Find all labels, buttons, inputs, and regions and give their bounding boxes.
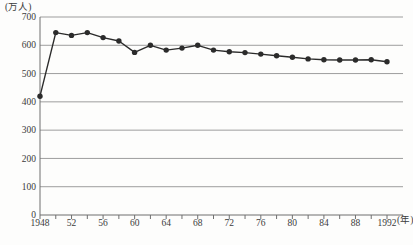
data-point-marker xyxy=(369,57,374,62)
y-tick-label: 200 xyxy=(22,154,37,164)
data-point-marker xyxy=(164,47,169,52)
data-point-marker xyxy=(211,47,216,52)
data-point-marker xyxy=(290,55,295,60)
data-point-marker xyxy=(37,94,42,99)
y-tick-label: 400 xyxy=(22,97,37,107)
x-tick-label: 64 xyxy=(161,218,171,228)
y-tick-label: 500 xyxy=(22,69,37,79)
x-tick-label: 52 xyxy=(67,218,77,228)
data-point-marker xyxy=(227,49,232,54)
y-axis-unit-label: (万人) xyxy=(5,3,31,13)
data-point-marker xyxy=(132,50,137,55)
data-point-marker xyxy=(242,50,247,55)
data-point-marker xyxy=(195,43,200,48)
y-tick-label: 600 xyxy=(22,40,37,50)
data-point-marker xyxy=(116,38,121,43)
data-line xyxy=(40,33,387,97)
data-point-marker xyxy=(353,57,358,62)
x-tick-label: 72 xyxy=(225,218,235,228)
data-point-marker xyxy=(337,57,342,62)
x-tick-label: 80 xyxy=(288,218,298,228)
x-tick-label: 76 xyxy=(256,218,266,228)
line-chart-figure: 0100200300400500600700194852566064687276… xyxy=(0,0,413,245)
x-tick-label: 56 xyxy=(98,218,108,228)
data-point-marker xyxy=(179,45,184,50)
data-point-marker xyxy=(100,35,105,40)
y-tick-label: 700 xyxy=(22,12,37,22)
data-point-marker xyxy=(274,53,279,58)
x-tick-label: 1948 xyxy=(31,218,50,228)
x-tick-label: 84 xyxy=(319,218,329,228)
data-point-marker xyxy=(69,33,74,38)
y-tick-label: 300 xyxy=(22,125,37,135)
data-point-marker xyxy=(321,57,326,62)
y-tick-label: 100 xyxy=(22,182,37,192)
data-point-marker xyxy=(148,43,153,48)
data-point-marker xyxy=(305,56,310,61)
x-tick-label: 88 xyxy=(351,218,361,228)
data-point-marker xyxy=(384,59,389,64)
data-point-marker xyxy=(258,51,263,56)
x-axis-unit-label: (年) xyxy=(397,216,413,226)
x-tick-label: 1992 xyxy=(378,218,397,228)
data-point-marker xyxy=(53,30,58,35)
data-point-marker xyxy=(85,30,90,35)
x-tick-label: 60 xyxy=(130,218,140,228)
x-tick-label: 68 xyxy=(193,218,203,228)
line-chart: 0100200300400500600700194852566064687276… xyxy=(0,0,413,245)
